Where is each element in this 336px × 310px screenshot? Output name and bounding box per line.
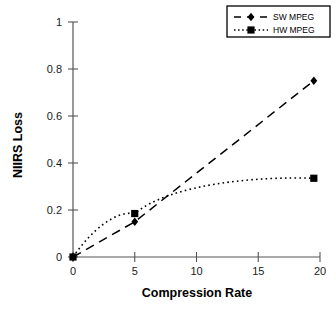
x-axis-title: Compression Rate [142, 286, 252, 300]
data-point-square [310, 175, 317, 182]
x-tick-label: 5 [132, 265, 138, 277]
legend-label: SW MPEG [273, 12, 314, 22]
chart-figure: 00.20.40.60.81 05101520 Compression Rate… [0, 0, 336, 310]
data-point-square [131, 210, 138, 217]
x-tick-label: 10 [190, 265, 202, 277]
x-tick-label: 15 [252, 265, 264, 277]
data-point-square [69, 253, 76, 260]
y-tick-label: 1 [56, 16, 62, 28]
y-tick-label: 0.6 [47, 110, 62, 122]
data-point-square [247, 26, 254, 33]
x-tick-label: 20 [314, 265, 326, 277]
y-axis-title: NIIRS Loss [11, 112, 25, 178]
chart-svg: 00.20.40.60.81 05101520 Compression Rate… [0, 0, 336, 310]
y-tick-label: 0.4 [47, 157, 62, 169]
legend-label: HW MPEG [273, 25, 315, 35]
y-tick-label: 0.2 [47, 204, 62, 216]
y-tick-label: 0.8 [47, 63, 62, 75]
chart-background [0, 0, 336, 310]
legend: SW MPEGHW MPEG [227, 6, 330, 37]
x-tick-label: 0 [70, 265, 76, 277]
y-tick-label: 0 [56, 251, 62, 263]
